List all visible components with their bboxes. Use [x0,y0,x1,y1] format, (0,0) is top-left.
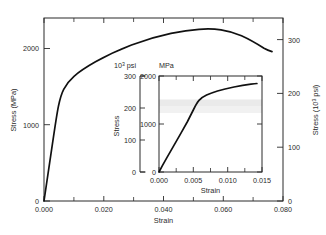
inset-ytick-label-2000: 2000 [140,72,156,81]
inset-outer-ytick-label-200: 200 [124,104,136,113]
main-xaxis-title: Strain [154,216,173,225]
scan-smudge-band-2 [159,106,262,113]
inset-xtick-label-1: 0.005 [184,176,202,185]
main-ytick-right-label-100: 100 [288,143,300,152]
inset-outer-unit-base: 10 [114,61,122,70]
chart-svg: 0 1000 2000 0 100 200 300 0.000 0.020 0.… [0,0,326,235]
right-axis-title-post: psi) [311,85,320,99]
main-bottom-ticks [44,196,283,201]
inset-plot: 0 100 200 300 103 psi Stress 0 1000 2000… [105,59,271,195]
inset-outer-ytick-label-300: 300 [124,72,136,81]
main-top-ticks [44,18,283,23]
inset-inner-unit-label: MPa [159,61,174,70]
main-yaxis-right-title: Stress (103 psi) [311,85,320,136]
main-xtick-label-4: 0.080 [274,205,292,214]
main-yaxis-title: Stress (MPa) [9,88,18,131]
main-ytick-label-1000: 1000 [23,121,39,130]
inset-xtick-label-2: 0.010 [219,176,237,185]
right-axis-title-pre: Stress (10 [311,102,320,136]
inset-outer-ytick-label-0: 0 [132,168,136,177]
inset-yaxis-title: Stress [112,115,121,136]
main-ytick-right-label-200: 200 [288,89,300,98]
scan-smudge-band [159,100,262,107]
inset-xtick-label-3: 0.015 [253,176,271,185]
inset-outer-ytick-label-100: 100 [124,136,136,145]
inset-outer-unit-suffix: psi [125,61,137,70]
main-ytick-label-2000: 2000 [23,44,39,53]
main-xtick-label-2: 0.040 [155,205,173,214]
main-xtick-label-3: 0.060 [214,205,232,214]
main-xtick-label-0: 0.000 [35,205,53,214]
inset-xtick-label-0: 0.000 [150,176,168,185]
main-xtick-label-1: 0.020 [95,205,113,214]
inset-outer-unit-label: 103 psi [114,61,136,70]
inset-xaxis-title: Strain [201,186,220,195]
main-right-ticks [277,40,283,201]
stress-strain-figure: 0 1000 2000 0 100 200 300 0.000 0.020 0.… [0,0,326,235]
svg-text:Stress (103 psi): Stress (103 psi) [311,85,320,136]
inset-ytick-label-1000: 1000 [140,120,156,129]
main-ytick-right-label-300: 300 [288,36,300,45]
